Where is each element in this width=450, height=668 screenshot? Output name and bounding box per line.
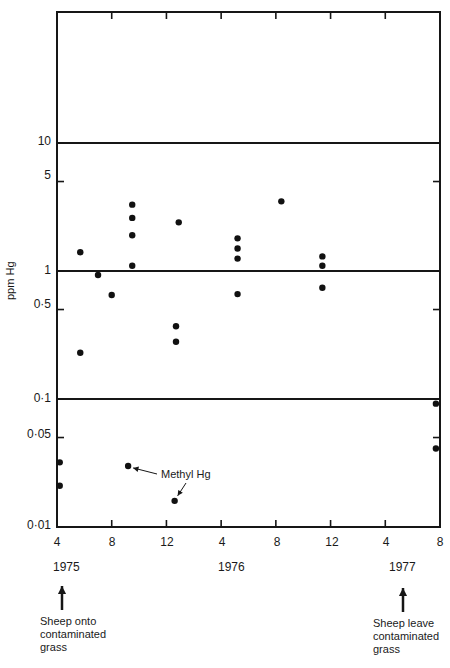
data-point bbox=[278, 198, 284, 204]
y-tick-label-10: 10 bbox=[11, 134, 51, 148]
data-point bbox=[57, 459, 63, 465]
y-tick-label-1: 1 bbox=[11, 263, 51, 277]
x-tick-label: 4 bbox=[45, 535, 69, 549]
plot-border bbox=[57, 12, 440, 527]
note-line: grass bbox=[40, 641, 106, 654]
data-point bbox=[77, 249, 83, 255]
methyl-hg-point bbox=[171, 498, 177, 504]
year-label-1975: 1975 bbox=[53, 560, 80, 574]
x-tick-label: 12 bbox=[320, 535, 344, 549]
y-tick-label-5: 5 bbox=[11, 168, 51, 182]
x-tick-label: 8 bbox=[265, 535, 289, 549]
note-line: contaminated bbox=[373, 630, 439, 643]
data-point bbox=[234, 245, 240, 251]
data-point bbox=[234, 255, 240, 261]
reference-lines bbox=[57, 143, 440, 399]
data-point bbox=[319, 253, 325, 259]
data-point bbox=[234, 291, 240, 297]
note-sheep-leave-grass: Sheep leave contaminated grass bbox=[373, 617, 439, 656]
y-tick-label-0.01: 0·01 bbox=[11, 518, 51, 532]
year-label-1977: 1977 bbox=[389, 560, 416, 574]
year-label-1976: 1976 bbox=[218, 560, 245, 574]
methyl-hg-point bbox=[125, 463, 131, 469]
y-tick-label-0.1: 0·1 bbox=[11, 391, 51, 405]
note-line: contaminated bbox=[40, 628, 106, 641]
data-point bbox=[173, 323, 179, 329]
x-tick-label: 4 bbox=[374, 535, 398, 549]
data-point bbox=[173, 339, 179, 345]
data-point bbox=[109, 292, 115, 298]
x-tick-label: 4 bbox=[210, 535, 234, 549]
data-point bbox=[129, 263, 135, 269]
plot-frame bbox=[57, 12, 440, 527]
data-point bbox=[95, 272, 101, 278]
data-point bbox=[77, 349, 83, 355]
methyl-hg-annotation: Methyl Hg bbox=[161, 468, 211, 480]
data-point bbox=[433, 445, 439, 451]
data-point bbox=[319, 285, 325, 291]
y-tick-label-0.5: 0·5 bbox=[11, 297, 51, 311]
y-axis-title: ppm Hg bbox=[4, 261, 16, 300]
note-line: Sheep leave bbox=[373, 617, 439, 630]
note-line: Sheep onto bbox=[40, 615, 106, 628]
data-point bbox=[176, 219, 182, 225]
x-tick-label: 8 bbox=[428, 535, 450, 549]
data-points bbox=[57, 198, 440, 504]
note-line: grass bbox=[373, 643, 439, 656]
x-tick-label: 8 bbox=[100, 535, 124, 549]
note-sheep-onto-grass: Sheep onto contaminated grass bbox=[40, 615, 106, 654]
x-tick-label: 12 bbox=[155, 535, 179, 549]
data-point bbox=[129, 201, 135, 207]
data-point bbox=[234, 235, 240, 241]
data-point bbox=[319, 263, 325, 269]
data-point bbox=[57, 483, 63, 489]
data-point bbox=[129, 232, 135, 238]
data-point bbox=[433, 400, 439, 406]
y-tick-label-0.05: 0·05 bbox=[11, 427, 51, 441]
data-point bbox=[129, 215, 135, 221]
axis-ticks bbox=[57, 12, 440, 527]
